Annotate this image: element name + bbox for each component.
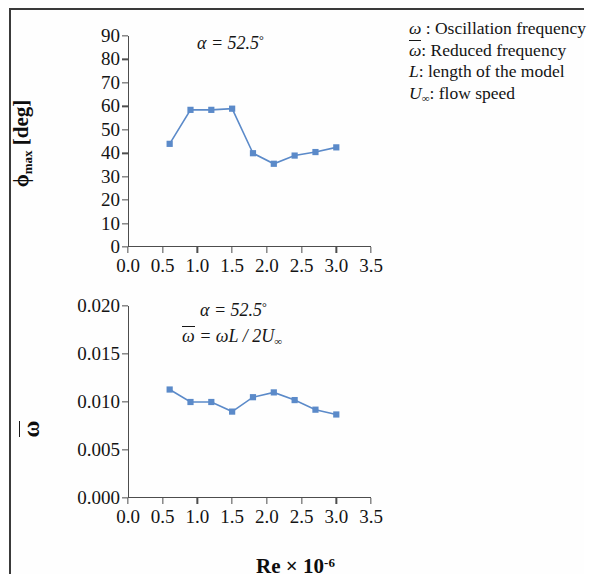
- x-tick-mark: [336, 498, 337, 504]
- x-tick-mark: [197, 498, 198, 504]
- legend-item-omega-bar: ω: Reduced frequency: [409, 40, 591, 62]
- data-point-marker: [312, 407, 318, 413]
- x-tick-label: 1.5: [220, 255, 244, 277]
- legend-symbol-length: L: [409, 61, 419, 81]
- x-tick-mark: [266, 498, 267, 504]
- legend-item-length: L: length of the model: [409, 61, 591, 83]
- y-tick-mark: [122, 59, 128, 60]
- data-point-marker: [187, 107, 193, 113]
- y-tick-label: 40: [50, 142, 120, 164]
- y-tick-mark: [122, 106, 128, 107]
- main-x-axis-title-exponent: -6: [324, 555, 335, 570]
- main-x-axis-title-base: Re × 10: [256, 554, 324, 578]
- main-x-axis-title: Re × 10-6: [0, 554, 591, 579]
- x-tick-label: 0.0: [116, 255, 140, 277]
- y-tick-mark: [122, 401, 128, 402]
- x-tick-mark: [370, 247, 371, 253]
- y-tick-label: 30: [50, 166, 120, 188]
- data-point-marker: [167, 386, 173, 392]
- data-point-marker: [292, 152, 298, 158]
- x-tick-mark: [127, 247, 128, 253]
- data-point-marker: [229, 106, 235, 112]
- x-tick-mark: [301, 247, 302, 253]
- y-tick-mark: [122, 449, 128, 450]
- x-tick-label: 1.0: [186, 506, 210, 528]
- y-tick-label: 80: [50, 48, 120, 70]
- y-tick-mark: [122, 199, 128, 200]
- y-tick-mark: [122, 305, 128, 306]
- legend-symbol-omega: ω: [409, 18, 421, 38]
- legend-text-omega-bar: : Reduced frequency: [421, 40, 566, 60]
- x-tick-label: 2.0: [255, 255, 279, 277]
- x-tick-label: 3.5: [359, 255, 383, 277]
- x-tick-label: 0.0: [116, 506, 140, 528]
- legend-text-length: : length of the model: [419, 61, 565, 81]
- y-tick-mark: [122, 35, 128, 36]
- x-tick-mark: [197, 247, 198, 253]
- phi-max-chart: ϕmax [deg] α = 52.5° 0102030405060708090…: [0, 0, 400, 280]
- legend-item-omega: ω : Oscillation frequency: [409, 18, 591, 40]
- y-tick-label: 60: [50, 95, 120, 117]
- y-tick-mark: [122, 223, 128, 224]
- legend-item-flow-speed: U∞: flow speed: [409, 83, 591, 110]
- data-point-marker: [333, 411, 339, 417]
- reduced-frequency-chart: ω α = 52.5° ω = ωL / 2U∞ 0.0000.0050.010…: [0, 286, 400, 546]
- x-tick-label: 3.0: [324, 506, 348, 528]
- x-tick-mark: [301, 498, 302, 504]
- nomenclature-legend: ω : Oscillation frequency ω: Reduced fre…: [409, 18, 591, 109]
- y-tick-mark: [122, 129, 128, 130]
- data-point-marker: [167, 141, 173, 147]
- figure-container: ω : Oscillation frequency ω: Reduced fre…: [0, 0, 591, 586]
- x-tick-label: 2.5: [290, 255, 314, 277]
- data-point-marker: [250, 150, 256, 156]
- x-tick-label: 1.0: [186, 255, 210, 277]
- y-tick-mark: [122, 153, 128, 154]
- x-tick-label: 1.5: [220, 506, 244, 528]
- data-point-marker: [208, 399, 214, 405]
- series-line: [170, 390, 337, 415]
- y-tick-label: 10: [50, 213, 120, 235]
- data-point-marker: [229, 409, 235, 415]
- y-tick-label: 20: [50, 189, 120, 211]
- x-tick-label: 3.5: [359, 506, 383, 528]
- x-tick-mark: [162, 247, 163, 253]
- data-point-marker: [333, 144, 339, 150]
- legend-text-flow-speed: : flow speed: [429, 83, 515, 103]
- x-tick-label: 0.5: [151, 255, 175, 277]
- y-tick-label: 0.020: [50, 295, 120, 317]
- data-point-marker: [187, 399, 193, 405]
- data-point-marker: [271, 389, 277, 395]
- x-tick-label: 2.0: [255, 506, 279, 528]
- y-tick-mark: [122, 353, 128, 354]
- x-tick-mark: [127, 498, 128, 504]
- y-tick-mark: [122, 176, 128, 177]
- legend-symbol-flow-speed: U: [409, 83, 422, 103]
- x-tick-label: 3.0: [324, 255, 348, 277]
- x-tick-mark: [162, 498, 163, 504]
- y-tick-label: 70: [50, 72, 120, 94]
- x-tick-label: 2.5: [290, 506, 314, 528]
- x-tick-mark: [336, 247, 337, 253]
- data-point-marker: [292, 397, 298, 403]
- y-tick-label: 0.015: [50, 343, 120, 365]
- legend-text-omega: : Oscillation frequency: [421, 18, 586, 38]
- data-point-marker: [312, 149, 318, 155]
- y-tick-label: 0.005: [50, 439, 120, 461]
- x-tick-mark: [231, 247, 232, 253]
- y-tick-label: 90: [50, 25, 120, 47]
- x-tick-mark: [266, 247, 267, 253]
- data-point-marker: [250, 394, 256, 400]
- y-tick-label: 50: [50, 119, 120, 141]
- data-point-marker: [208, 107, 214, 113]
- y-tick-label: 0.010: [50, 391, 120, 413]
- legend-symbol-omega-bar: ω: [409, 40, 421, 59]
- x-tick-mark: [231, 498, 232, 504]
- y-tick-label: 0.000: [50, 487, 120, 509]
- y-tick-label: 0: [50, 236, 120, 258]
- x-tick-mark: [370, 498, 371, 504]
- x-tick-label: 0.5: [151, 506, 175, 528]
- y-tick-mark: [122, 82, 128, 83]
- data-point-marker: [271, 161, 277, 167]
